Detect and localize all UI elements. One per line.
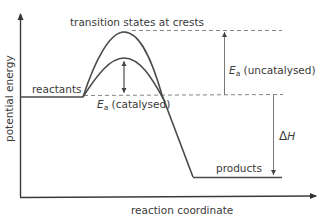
x-axis xyxy=(20,196,316,198)
delta-h-label: ΔH xyxy=(279,129,295,143)
reactants-label: reactants xyxy=(32,83,82,95)
y-axis-label: potential energy xyxy=(3,55,15,142)
reactant-level-dashed-line xyxy=(84,95,283,96)
ea-catalysed-label: Ea (catalysed) xyxy=(97,98,170,112)
transition-states-label: transition states at crests xyxy=(70,16,204,28)
x-axis-label: reaction coordinate xyxy=(131,204,233,216)
energy-profile-diagram: transition states at crests reactants pr… xyxy=(0,0,326,218)
ea-uncatalysed-label: Ea (uncatalysed) xyxy=(229,64,316,78)
products-label: products xyxy=(216,162,262,174)
